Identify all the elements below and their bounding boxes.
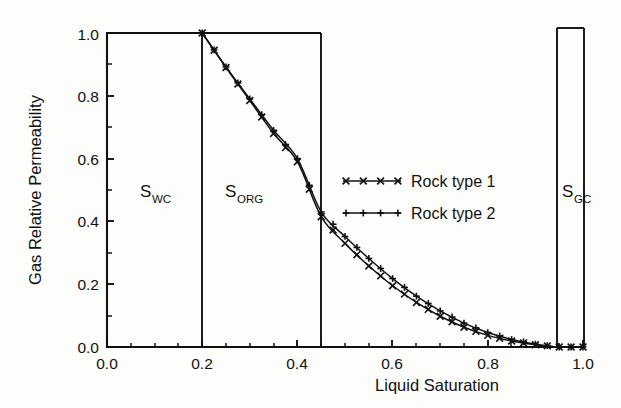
y-tick-label: 0.2 bbox=[77, 276, 99, 293]
x-tick-label: 0.8 bbox=[477, 355, 499, 372]
zone-label-sorg-sub: ORG bbox=[237, 193, 263, 205]
x-tick-label: 0.6 bbox=[381, 355, 403, 372]
x-cross-marker-icon bbox=[342, 240, 349, 247]
zone-label-sgc-sub: GC bbox=[574, 193, 591, 205]
y-tick-label: 1.0 bbox=[77, 26, 99, 43]
y-tick-labels: 0.0 0.2 0.4 0.6 0.8 1.0 bbox=[77, 26, 99, 356]
x-axis-title: Liquid Saturation bbox=[375, 376, 499, 394]
x-cross-marker-icon bbox=[425, 306, 432, 313]
plus-marker-icon bbox=[377, 210, 384, 217]
x-cross-marker-icon bbox=[389, 282, 396, 289]
x-tick-label: 1.0 bbox=[572, 355, 594, 372]
x-tick-labels: 0.0 0.2 0.4 0.6 0.8 1.0 bbox=[96, 355, 594, 372]
axis-frame bbox=[107, 28, 584, 347]
x-cross-marker-icon bbox=[401, 291, 408, 298]
y-tick-label: 0.4 bbox=[77, 213, 99, 230]
series-line bbox=[202, 33, 583, 347]
plus-marker-icon bbox=[343, 210, 350, 217]
zone-label-sorg: S ORG bbox=[225, 182, 263, 205]
y-tick-label: 0.0 bbox=[77, 339, 99, 356]
legend-label-rock-type-1: Rock type 1 bbox=[411, 173, 496, 190]
chart-legend: Rock type 1 Rock type 2 bbox=[343, 173, 496, 222]
series-layer bbox=[199, 30, 587, 351]
y-tick-label: 0.8 bbox=[77, 88, 99, 105]
plus-marker-icon bbox=[360, 210, 367, 217]
series-2 bbox=[199, 30, 587, 351]
zone-label-swc: S WC bbox=[140, 182, 171, 205]
plus-marker-icon bbox=[395, 210, 402, 217]
plus-marker-icon bbox=[294, 155, 301, 162]
x-tick-label: 0.2 bbox=[191, 355, 213, 372]
legend-marker-rock-type-1-icon bbox=[343, 178, 402, 185]
legend-label-rock-type-2: Rock type 2 bbox=[411, 205, 496, 222]
gas-relative-permeability-chart: 0.0 0.2 0.4 0.6 0.8 1.0 0.0 0.2 0.4 0.6 … bbox=[0, 0, 621, 408]
x-cross-marker-icon bbox=[377, 272, 384, 279]
series-markers bbox=[199, 30, 587, 351]
zone-label-sgc: S GC bbox=[562, 182, 591, 205]
series-line bbox=[202, 33, 583, 347]
zone-label-sorg-base: S bbox=[225, 182, 236, 201]
legend-marker-rock-type-2-icon bbox=[343, 210, 402, 217]
series-markers bbox=[199, 30, 587, 351]
y-tick-label: 0.6 bbox=[77, 151, 99, 168]
y-axis-title: Gas Relative Permeability bbox=[26, 94, 44, 285]
x-cross-marker-icon bbox=[413, 299, 420, 306]
series-1 bbox=[199, 30, 587, 351]
x-tick-label: 0.4 bbox=[286, 355, 308, 372]
zone-label-swc-base: S bbox=[140, 182, 151, 201]
x-cross-marker-icon bbox=[365, 263, 372, 270]
zone-label-sgc-base: S bbox=[562, 182, 573, 201]
zone-label-swc-sub: WC bbox=[152, 193, 171, 205]
x-cross-marker-icon bbox=[354, 251, 361, 258]
figure-container: 0.0 0.2 0.4 0.6 0.8 1.0 0.0 0.2 0.4 0.6 … bbox=[0, 0, 621, 408]
x-tick-label: 0.0 bbox=[96, 355, 118, 372]
